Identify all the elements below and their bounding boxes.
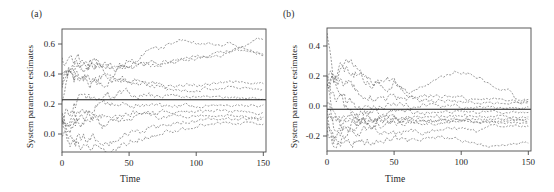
trajectory-estimate-7 <box>62 99 263 127</box>
plot-frame <box>62 29 266 152</box>
x-tick-label: 0 <box>60 158 65 168</box>
trajectory-estimate-11 <box>62 122 263 154</box>
trajectory-estimate-9 <box>327 124 528 144</box>
y-tick-label: 0.4 <box>44 69 56 79</box>
trajectory-estimate-10 <box>62 117 263 146</box>
y-tick-label: 0.4 <box>309 41 321 51</box>
trajectory-estimate-4 <box>62 70 263 88</box>
trajectory-estimate-10 <box>327 127 528 148</box>
trajectory-estimate-8 <box>327 117 528 139</box>
panel-a: (a) System parameter estimates Time 0501… <box>0 0 277 192</box>
trajectory-group <box>327 33 528 148</box>
trajectory-estimate-2 <box>62 49 263 71</box>
figure-two-panel-parameter-estimates: (a) System parameter estimates Time 0501… <box>0 0 554 192</box>
x-tick-label: 100 <box>189 158 203 168</box>
trajectory-estimate-5 <box>62 71 263 92</box>
y-tick-label: -0.2 <box>306 131 320 141</box>
x-tick-label: 100 <box>454 157 468 167</box>
y-tick-label: 0.2 <box>44 99 55 109</box>
trajectory-group <box>62 38 263 154</box>
y-tick-label: 0.0 <box>44 129 56 139</box>
trajectory-estimate-3 <box>62 47 263 101</box>
plot-area-a: 0501001500.00.20.40.6 <box>0 0 277 192</box>
x-tick-label: 50 <box>125 158 135 168</box>
panel-b: (b) System parameter estimates Time 0501… <box>277 0 554 192</box>
x-tick-label: 150 <box>522 157 536 167</box>
trajectory-estimate-4 <box>327 75 528 109</box>
trajectory-estimate-11 <box>327 77 528 126</box>
y-tick-label: 0.6 <box>44 39 56 49</box>
y-tick-label: 0.2 <box>309 71 320 81</box>
x-tick-label: 50 <box>390 157 400 167</box>
y-tick-label: 0.0 <box>309 101 321 111</box>
trajectory-estimate-9 <box>62 112 263 129</box>
plot-area-b: 050100150-0.20.00.20.4 <box>277 0 554 192</box>
x-tick-label: 0 <box>325 157 330 167</box>
x-tick-label: 150 <box>257 158 271 168</box>
